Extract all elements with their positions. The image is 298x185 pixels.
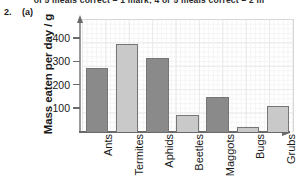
y-axis-tick: 300 bbox=[73, 61, 80, 63]
bar-slot bbox=[203, 18, 233, 132]
clipped-header-text: of 5 meals correct = 1 mark; 4 or 5 meal… bbox=[0, 0, 298, 4]
y-axis-tick-label: 300 bbox=[52, 55, 70, 67]
x-label-slot: Grubs bbox=[265, 134, 295, 185]
question-number: 2. bbox=[4, 7, 12, 17]
bar-slot bbox=[172, 18, 202, 132]
bar-maggots bbox=[206, 97, 228, 132]
bar-slot bbox=[82, 18, 112, 132]
y-axis-tick-label: 400 bbox=[52, 32, 70, 44]
y-axis-title: Mass eaten per day / g bbox=[42, 8, 54, 140]
bar-series bbox=[82, 18, 293, 132]
bar-termites bbox=[116, 44, 138, 132]
x-label-slot: Maggots bbox=[204, 134, 234, 185]
y-axis-line bbox=[79, 19, 81, 133]
bar-grubs bbox=[267, 106, 289, 132]
y-axis-tick: 400 bbox=[73, 37, 80, 39]
bar-bugs bbox=[237, 127, 259, 132]
bar-aphids bbox=[146, 58, 168, 132]
bar-slot bbox=[112, 18, 142, 132]
bar-slot bbox=[142, 18, 172, 132]
bar-ants bbox=[86, 68, 108, 132]
x-axis-label-grubs: Grubs bbox=[285, 134, 297, 164]
bar-slot bbox=[233, 18, 263, 132]
x-label-slot: Bugs bbox=[234, 134, 264, 185]
x-label-slot: Beetles bbox=[173, 134, 203, 185]
y-axis-tick: 100 bbox=[73, 107, 80, 109]
question-part-label: (a) bbox=[22, 7, 33, 17]
x-label-slot: Ants bbox=[82, 134, 112, 185]
x-label-slot: Aphids bbox=[143, 134, 173, 185]
x-label-slot: Termites bbox=[112, 134, 142, 185]
y-axis-tick-label: 100 bbox=[52, 102, 70, 114]
bar-slot bbox=[263, 18, 293, 132]
chart-plot-wrapper: 100200300400 bbox=[79, 16, 294, 133]
y-axis-tick: 200 bbox=[73, 84, 80, 86]
y-axis-tick-label: 200 bbox=[52, 79, 70, 91]
bar-beetles bbox=[176, 115, 198, 132]
x-axis-category-labels: AntsTermitesAphidsBeetlesMaggotsBugsGrub… bbox=[82, 134, 295, 185]
